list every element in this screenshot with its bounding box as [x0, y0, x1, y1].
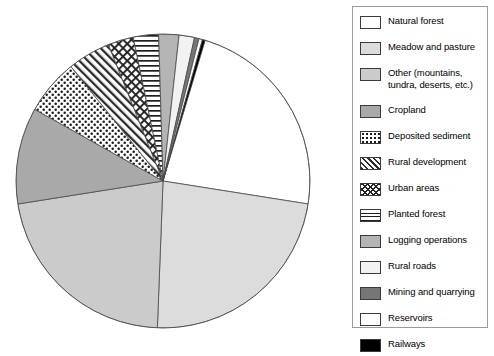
legend-item-label: Other (mountains, tundra, deserts, etc.) [388, 66, 473, 90]
legend-item-label: Urban areas [388, 181, 439, 194]
legend-item[interactable]: Mining and quarrying [353, 285, 487, 311]
legend-swatch-icon [360, 235, 381, 248]
legend-item[interactable]: Other (mountains, tundra, deserts, etc.) [353, 66, 487, 103]
legend-swatch-icon [360, 16, 381, 29]
legend-swatch-icon [360, 261, 381, 274]
legend-swatch-icon [360, 68, 381, 81]
pie-slices [16, 34, 310, 328]
legend-swatch-icon [360, 105, 381, 118]
legend-item[interactable]: Urban areas [353, 181, 487, 207]
legend-item-label: Mining and quarrying [388, 285, 475, 298]
legend-swatch-icon [360, 209, 381, 222]
legend-item[interactable]: Meadow and pasture [353, 40, 487, 66]
pie-slice [157, 181, 308, 328]
legend-swatch-icon [360, 313, 381, 326]
legend-item[interactable]: Deposited sediment [353, 129, 487, 155]
legend-item-label: Rural roads [388, 259, 436, 272]
legend-item[interactable]: Planted forest [353, 207, 487, 233]
pie-chart [0, 0, 330, 350]
legend-item-label: Logging operations [388, 233, 467, 246]
legend-item-label: Reservoirs [388, 311, 432, 324]
legend-item-label: Cropland [388, 103, 426, 116]
legend-item[interactable]: Natural forest [353, 14, 487, 40]
legend-item-label: Railways [388, 337, 425, 350]
legend-swatch-icon [360, 157, 381, 170]
legend-swatch-icon [360, 42, 381, 55]
pie-slice [18, 181, 163, 328]
legend-swatch-icon [360, 339, 381, 352]
legend-item-label: Meadow and pasture [388, 40, 475, 53]
chart-legend: Natural forestMeadow and pastureOther (m… [352, 6, 488, 328]
legend-item[interactable]: Rural roads [353, 259, 487, 285]
legend-item[interactable]: Cropland [353, 103, 487, 129]
pie-chart-area [0, 0, 330, 350]
legend-item-label: Planted forest [388, 207, 445, 220]
legend-swatch-icon [360, 183, 381, 196]
legend-swatch-icon [360, 287, 381, 300]
legend-item-label: Natural forest [388, 14, 444, 27]
legend-item-label: Deposited sediment [388, 129, 470, 142]
legend-item[interactable]: Rural development [353, 155, 487, 181]
legend-item[interactable]: Reservoirs [353, 311, 487, 337]
legend-item[interactable]: Logging operations [353, 233, 487, 259]
legend-item[interactable]: Railways [353, 337, 487, 356]
legend-item-label: Rural development [388, 155, 466, 168]
legend-swatch-icon [360, 131, 381, 144]
